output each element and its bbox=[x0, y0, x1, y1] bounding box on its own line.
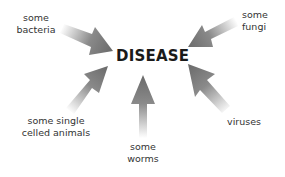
arrow-viruses-icon bbox=[188, 64, 230, 113]
label-line: bacteria bbox=[14, 24, 58, 36]
label-line: fungi bbox=[242, 21, 278, 33]
arrow-single-celled-icon bbox=[66, 66, 108, 114]
label-line: some bbox=[14, 12, 58, 24]
label-some-single-celled-animals: some single celled animals bbox=[18, 115, 94, 139]
label-line: some bbox=[123, 141, 163, 153]
label-line: celled animals bbox=[18, 127, 94, 139]
arrow-fungi-icon bbox=[188, 16, 238, 47]
label-line: some bbox=[242, 9, 278, 21]
disease-causes-diagram: DISEASE some bacteria some fungi some si… bbox=[0, 0, 285, 177]
center-label-disease: DISEASE bbox=[116, 47, 189, 65]
label-some-worms: some worms bbox=[123, 141, 163, 165]
label-line: viruses bbox=[224, 116, 264, 128]
label-line: some single bbox=[18, 115, 94, 127]
arrow-bacteria-icon bbox=[60, 24, 113, 55]
label-line: worms bbox=[123, 153, 163, 165]
label-viruses: viruses bbox=[224, 116, 264, 128]
label-some-fungi: some fungi bbox=[242, 9, 278, 33]
label-some-bacteria: some bacteria bbox=[14, 12, 58, 36]
arrow-worms-icon bbox=[131, 75, 155, 138]
